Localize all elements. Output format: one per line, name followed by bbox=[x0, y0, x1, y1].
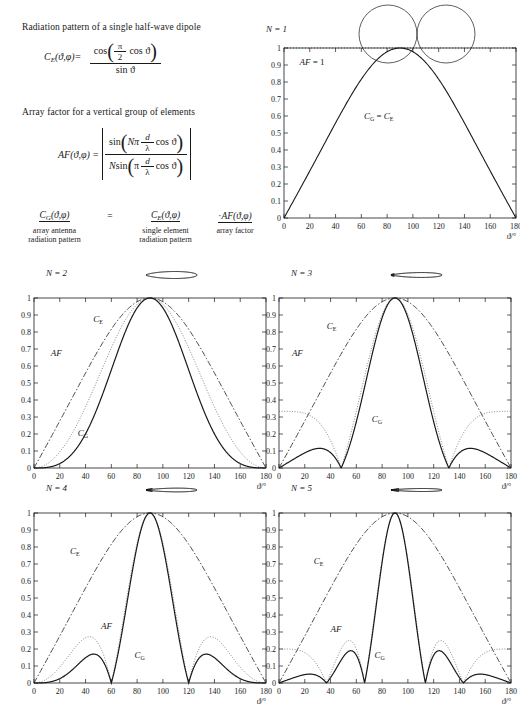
curve-af bbox=[34, 298, 265, 468]
af-title: Array factor for a vertical group of ele… bbox=[22, 107, 195, 117]
xtick-100: 100 bbox=[157, 687, 169, 696]
ytick-0.8: 0.8 bbox=[266, 328, 276, 337]
ce-fraction: cos(π2cos ϑ) sin ϑ bbox=[90, 40, 161, 75]
curve-cg bbox=[279, 513, 511, 683]
ytick-0.5: 0.5 bbox=[266, 594, 276, 603]
cg-term: CG(ϑ,φ) bbox=[14, 210, 95, 222]
ytick-0.3: 0.3 bbox=[266, 413, 276, 422]
af-N-pi: Nπ bbox=[127, 136, 139, 147]
ytick-0.4: 0.4 bbox=[21, 396, 31, 405]
xtick-0: 0 bbox=[277, 687, 281, 696]
xtick-80: 80 bbox=[133, 687, 141, 696]
xtick-60: 60 bbox=[107, 687, 115, 696]
polar-inset-3 bbox=[339, 262, 443, 288]
xtick-40: 40 bbox=[82, 687, 90, 696]
xtick-60: 60 bbox=[357, 222, 365, 231]
plot-svg-3: 02040608010012014016018000.10.20.30.40.5… bbox=[253, 294, 515, 490]
af-pi-den: π bbox=[134, 160, 139, 171]
annotation-cgce-1: CG = CE bbox=[364, 111, 394, 122]
ytick-0.6: 0.6 bbox=[266, 577, 276, 586]
curve-cg bbox=[34, 298, 266, 468]
panel-n3: N = 3 02040608010012014016018000.10.20.3… bbox=[253, 258, 515, 490]
ytick-0.2: 0.2 bbox=[266, 430, 276, 439]
af-sin-den: sin bbox=[116, 160, 128, 171]
ytick-1: 1 bbox=[27, 509, 31, 518]
annotation-cg-5: CG bbox=[374, 650, 385, 661]
panel-n1: N = 1 02040608010012014016018000.10.20.3… bbox=[258, 8, 520, 240]
plot-svg-4: 02040608010012014016018000.10.20.30.40.5… bbox=[8, 509, 270, 705]
ce-denominator: sin ϑ bbox=[90, 64, 161, 75]
ytick-0.7: 0.7 bbox=[271, 95, 281, 104]
ytick-0: 0 bbox=[277, 214, 281, 223]
n-label-2: N = 2 bbox=[46, 268, 67, 278]
product-equation: CG(ϑ,φ) = CE(ϑ,φ) ·AF(ϑ,φ) array antenna… bbox=[14, 210, 264, 245]
ytick-0.3: 0.3 bbox=[271, 163, 281, 172]
xtick-0: 0 bbox=[32, 687, 36, 696]
af-caption: array factor bbox=[206, 222, 264, 245]
ytick-0.9: 0.9 bbox=[266, 311, 276, 320]
ytick-0.6: 0.6 bbox=[21, 577, 31, 586]
ytick-0.7: 0.7 bbox=[21, 560, 31, 569]
ce-cos-theta: cos ϑ bbox=[129, 45, 150, 56]
cg-caption-line2: radiation pattern bbox=[28, 235, 81, 244]
ce-term: CE(ϑ,φ) bbox=[125, 210, 206, 222]
plot-svg-1: 02040608010012014016018000.10.20.30.40.5… bbox=[258, 44, 520, 240]
af-term: ·AF(ϑ,φ) bbox=[206, 210, 264, 222]
ytick-0.7: 0.7 bbox=[266, 345, 276, 354]
xtick-20: 20 bbox=[306, 222, 314, 231]
af-sin-num: sin bbox=[109, 136, 121, 147]
abs-bar-right bbox=[190, 128, 191, 180]
n-label-4: N = 4 bbox=[46, 483, 67, 493]
af-arguments: (ϑ,φ) = bbox=[70, 149, 99, 160]
ytick-0.9: 0.9 bbox=[21, 311, 31, 320]
ytick-0.3: 0.3 bbox=[21, 413, 31, 422]
n-label-5: N = 5 bbox=[291, 483, 312, 493]
xtick-140: 140 bbox=[458, 222, 470, 231]
annotation-ce-2: CE bbox=[93, 314, 103, 325]
xtick-140: 140 bbox=[453, 687, 465, 696]
xtick-20: 20 bbox=[56, 687, 64, 696]
polar-pattern-svg-2 bbox=[94, 262, 198, 288]
polar-pattern-svg-3 bbox=[339, 262, 443, 288]
ytick-0.8: 0.8 bbox=[21, 543, 31, 552]
xtick-80: 80 bbox=[383, 222, 391, 231]
annotation-ce-4: CE bbox=[70, 546, 80, 557]
annotation-af-4: AF bbox=[100, 621, 112, 631]
af-cos-theta-den: cos ϑ bbox=[156, 160, 177, 171]
polar-pattern-svg-1 bbox=[358, 4, 476, 64]
ytick-0.6: 0.6 bbox=[21, 362, 31, 371]
ytick-0.6: 0.6 bbox=[271, 112, 281, 121]
ytick-1: 1 bbox=[27, 294, 31, 303]
xtick-100: 100 bbox=[402, 687, 414, 696]
ytick-0.2: 0.2 bbox=[271, 180, 281, 189]
panel-n4: N = 4 02040608010012014016018000.10.20.3… bbox=[8, 473, 270, 705]
ce-pi: π bbox=[114, 41, 127, 52]
xtick-160: 160 bbox=[484, 222, 496, 231]
ce-caption-line1: single element bbox=[142, 226, 188, 235]
ytick-0.5: 0.5 bbox=[271, 129, 281, 138]
panel-n5: N = 5 02040608010012014016018000.10.20.3… bbox=[253, 473, 515, 705]
ytick-1: 1 bbox=[277, 44, 281, 53]
ytick-0.3: 0.3 bbox=[266, 628, 276, 637]
ytick-0.4: 0.4 bbox=[266, 611, 276, 620]
cg-caption-line1: array antenna bbox=[33, 226, 76, 235]
equals-sign: = bbox=[95, 210, 125, 222]
n-label-1: N = 1 bbox=[266, 24, 287, 34]
ytick-0.5: 0.5 bbox=[21, 379, 31, 388]
af-fraction: sin(Nπdλcos ϑ) Nsin(πdλcos ϑ) bbox=[105, 131, 187, 178]
curve-cg bbox=[279, 298, 511, 468]
xtick-120: 120 bbox=[433, 222, 445, 231]
polar-inset-4 bbox=[94, 477, 198, 503]
ytick-0.4: 0.4 bbox=[21, 611, 31, 620]
ytick-0: 0 bbox=[27, 679, 31, 688]
curve-ce bbox=[279, 298, 511, 468]
ytick-0.2: 0.2 bbox=[21, 645, 31, 654]
ytick-0.7: 0.7 bbox=[21, 345, 31, 354]
ytick-0.8: 0.8 bbox=[271, 78, 281, 87]
ce-arguments: (ϑ,φ)= bbox=[55, 51, 81, 62]
ytick-0.5: 0.5 bbox=[21, 594, 31, 603]
ytick-0.1: 0.1 bbox=[266, 447, 276, 456]
af-d-den: d bbox=[141, 156, 154, 167]
polar-inset-2 bbox=[94, 262, 198, 288]
ytick-0.5: 0.5 bbox=[266, 379, 276, 388]
